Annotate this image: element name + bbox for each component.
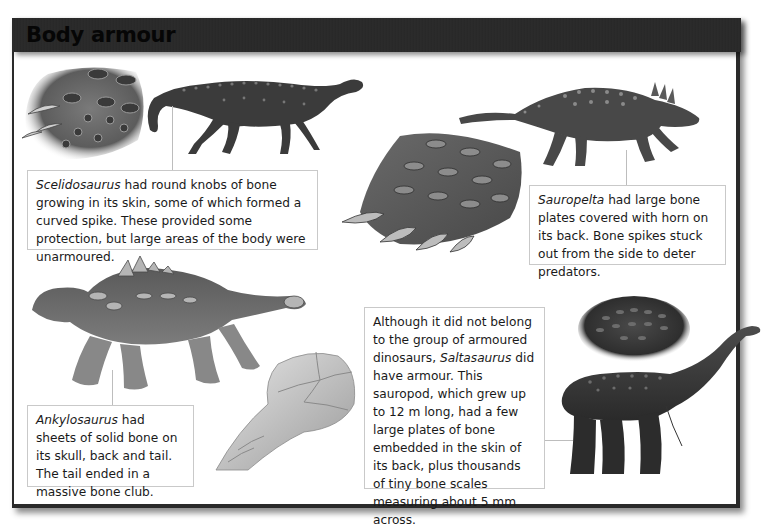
species-name: Sauropelta <box>538 193 604 207</box>
ankylosaurus-connector-line <box>112 370 113 405</box>
header-bar: Body armour <box>12 18 741 52</box>
species-name: Ankylosaurus <box>36 413 118 427</box>
sauropelta-connector-line <box>626 150 627 185</box>
ankylosaurus-caption: Ankylosaurus had sheets of solid bone on… <box>27 405 194 487</box>
sauropelta-caption: Sauropelta had large bone plates covered… <box>529 185 726 265</box>
scelidosaurus-connector-line <box>172 106 173 170</box>
sauropelta-illustration <box>455 74 705 174</box>
scelidosaurus-skin-illustration <box>18 62 146 162</box>
scelidosaurus-illustration <box>144 70 366 158</box>
caption-text-after: did have armour. This sauropod, which gr… <box>373 351 534 527</box>
saltasaurus-caption: Although it did not belong to the group … <box>364 307 545 489</box>
species-name: Saltasaurus <box>440 351 511 365</box>
species-name: Scelidosaurus <box>36 178 121 192</box>
scelidosaurus-caption: Scelidosaurus had round knobs of bone gr… <box>27 170 318 250</box>
page-title: Body armour <box>26 22 175 48</box>
saltasaurus-illustration <box>560 322 765 484</box>
ankylosaurus-tail-club-illustration <box>208 340 358 480</box>
